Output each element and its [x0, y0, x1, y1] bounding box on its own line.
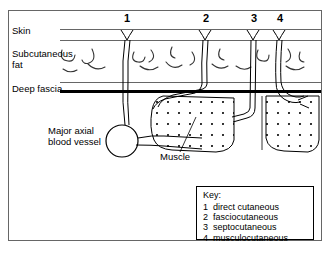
legend-item-3: 3septocutaneous	[203, 222, 313, 232]
label-skin: Skin	[12, 26, 30, 37]
major-axial-blood-vessel	[106, 125, 138, 157]
legend-item-1-label: direct cutaneous	[213, 202, 279, 212]
legend-item-3-number: 3	[203, 222, 213, 232]
legend-key: Key: 1direct cutaneous 2fasciocutaneous …	[196, 186, 314, 240]
vessel-number-1: 1	[124, 12, 130, 24]
legend-item-2-label: fasciocutaneous	[213, 212, 278, 222]
label-muscle: Muscle	[160, 152, 190, 163]
vessel-number-4: 4	[277, 12, 283, 24]
vessel-number-2: 2	[203, 12, 209, 24]
label-major-axial-blood-vessel: Major axial blood vessel	[48, 126, 101, 147]
vessel-number-3: 3	[251, 12, 257, 24]
legend-item-4-label: musculocutaneous	[213, 233, 288, 243]
legend-title: Key:	[203, 190, 313, 200]
label-subcutaneous-fat: Subcutaneous fat	[12, 49, 73, 70]
legend-item-2-number: 2	[203, 212, 213, 222]
label-deep-fascia: Deep fascia	[12, 84, 62, 95]
muscle-right	[262, 92, 326, 156]
legend-item-1-number: 1	[203, 202, 213, 212]
legend-item-1: 1direct cutaneous	[203, 202, 313, 212]
legend-item-4: 4musculocutaneous	[203, 233, 313, 243]
figure-canvas: 1 2 3 4 Skin Subcutaneous fat Deep fasci…	[0, 0, 331, 253]
legend-item-4-number: 4	[203, 233, 213, 243]
legend-item-2: 2fasciocutaneous	[203, 212, 313, 222]
legend-item-3-label: septocutaneous	[213, 222, 277, 232]
